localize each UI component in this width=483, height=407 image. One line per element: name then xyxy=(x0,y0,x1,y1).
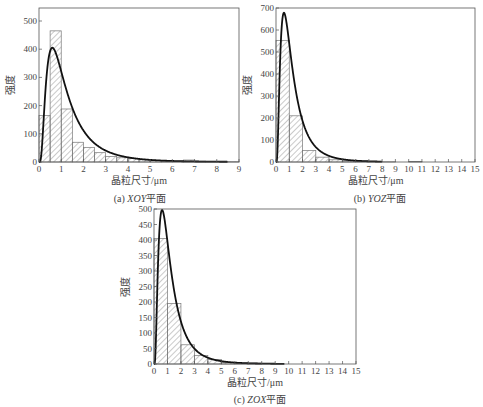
caption-c: (c) ZOX平面 xyxy=(180,391,340,406)
x-tick-label: 11 xyxy=(418,164,427,174)
y-tick-label: 50 xyxy=(143,344,153,354)
caption-plane: YOZ xyxy=(368,193,386,204)
y-tick-label: 0 xyxy=(270,157,275,167)
x-tick-label: 4 xyxy=(327,164,332,174)
x-tick-label: 14 xyxy=(338,366,348,376)
x-tick-label: 2 xyxy=(300,164,305,174)
y-tick-label: 150 xyxy=(139,313,153,323)
x-tick-label: 6 xyxy=(170,164,175,174)
caption-prefix: (c) xyxy=(234,394,248,405)
caption-plane: XOY xyxy=(127,193,146,204)
y-axis-label: 强度 xyxy=(119,277,131,297)
y-tick-label: 500 xyxy=(24,16,38,26)
y-tick-label: 200 xyxy=(24,101,38,111)
plot-frame xyxy=(276,8,475,162)
histogram-bar xyxy=(83,147,94,162)
x-tick-label: 8 xyxy=(380,164,385,174)
y-tick-label: 200 xyxy=(261,113,275,123)
y-tick-label: 0 xyxy=(148,359,153,369)
x-tick-label: 3 xyxy=(314,164,319,174)
x-tick-label: 15 xyxy=(471,164,481,174)
y-tick-label: 100 xyxy=(24,129,38,139)
histogram-bar xyxy=(181,345,194,364)
y-tick-label: 100 xyxy=(139,328,153,338)
y-tick-label: 0 xyxy=(33,157,38,167)
y-tick-label: 350 xyxy=(139,251,153,261)
x-axis-label: 晶粒尺寸/μm xyxy=(227,376,283,388)
x-axis-label: 晶粒尺寸/μm xyxy=(111,174,167,186)
x-tick-label: 0 xyxy=(37,164,42,174)
histogram-bar xyxy=(72,142,83,162)
x-axis-label: 晶粒尺寸/μm xyxy=(348,174,404,186)
x-tick-label: 12 xyxy=(311,366,320,376)
y-tick-label: 300 xyxy=(261,91,275,101)
x-tick-label: 1 xyxy=(287,164,292,174)
x-tick-label: 15 xyxy=(352,366,362,376)
y-tick-label: 400 xyxy=(261,69,275,79)
histogram-bar xyxy=(316,157,329,162)
x-tick-label: 5 xyxy=(148,164,153,174)
x-tick-label: 9 xyxy=(237,164,242,174)
y-tick-label: 500 xyxy=(261,47,275,57)
y-tick-label: 400 xyxy=(139,235,153,245)
caption-a: (a) XOY平面 xyxy=(60,190,220,205)
chart-xoy-plane: 01234567890100200300400500晶粒尺寸/μm强度 xyxy=(4,8,242,186)
x-tick-label: 9 xyxy=(393,164,398,174)
y-tick-label: 700 xyxy=(261,3,275,13)
x-tick-label: 4 xyxy=(206,366,211,376)
histogram-bar xyxy=(289,116,302,162)
x-tick-label: 2 xyxy=(81,164,86,174)
y-tick-label: 450 xyxy=(139,220,153,230)
x-tick-label: 3 xyxy=(103,164,108,174)
histogram-bar xyxy=(303,151,316,162)
caption-plane: ZOX xyxy=(247,394,266,405)
x-tick-label: 10 xyxy=(404,164,414,174)
x-tick-label: 7 xyxy=(192,164,197,174)
caption-suffix: 平面 xyxy=(266,394,286,405)
x-tick-label: 10 xyxy=(284,366,294,376)
x-tick-label: 6 xyxy=(233,366,238,376)
x-tick-label: 0 xyxy=(274,164,279,174)
y-axis-label: 强度 xyxy=(4,75,16,95)
x-tick-label: 0 xyxy=(152,366,157,376)
caption-suffix: 平面 xyxy=(146,193,166,204)
caption-b: (b) YOZ平面 xyxy=(300,190,460,205)
caption-suffix: 平面 xyxy=(386,193,406,204)
x-tick-label: 4 xyxy=(126,164,131,174)
y-tick-label: 100 xyxy=(261,135,275,145)
histogram-bar xyxy=(117,158,128,162)
x-tick-label: 1 xyxy=(59,164,64,174)
y-tick-label: 300 xyxy=(24,72,38,82)
plot-frame xyxy=(154,209,356,364)
y-tick-label: 600 xyxy=(261,25,275,35)
x-tick-label: 8 xyxy=(259,366,264,376)
x-tick-label: 11 xyxy=(298,366,307,376)
y-tick-label: 500 xyxy=(139,204,153,214)
histogram-bar xyxy=(61,109,72,162)
x-tick-label: 3 xyxy=(192,366,197,376)
x-tick-label: 12 xyxy=(431,164,440,174)
x-tick-label: 1 xyxy=(165,366,170,376)
y-tick-label: 250 xyxy=(139,282,153,292)
x-tick-label: 6 xyxy=(353,164,358,174)
histogram-bar xyxy=(95,153,106,162)
x-tick-label: 5 xyxy=(219,366,224,376)
x-tick-label: 8 xyxy=(215,164,220,174)
x-tick-label: 9 xyxy=(273,366,278,376)
chart-yoz-plane: 0123456789101112131415010020030040050060… xyxy=(241,3,480,186)
x-tick-label: 2 xyxy=(179,366,184,376)
caption-prefix: (b) xyxy=(354,193,368,204)
x-tick-label: 7 xyxy=(367,164,372,174)
histogram-bar xyxy=(106,156,117,162)
y-axis-label: 强度 xyxy=(241,75,253,95)
y-tick-label: 400 xyxy=(24,44,38,54)
x-tick-label: 13 xyxy=(325,366,335,376)
x-tick-label: 14 xyxy=(457,164,467,174)
y-tick-label: 300 xyxy=(139,266,153,276)
y-tick-label: 200 xyxy=(139,297,153,307)
chart-zox-plane: 0123456789101112131415050100150200250300… xyxy=(119,204,361,388)
x-tick-label: 7 xyxy=(246,366,251,376)
x-tick-label: 5 xyxy=(340,164,345,174)
x-tick-label: 13 xyxy=(444,164,454,174)
caption-prefix: (a) xyxy=(114,193,128,204)
